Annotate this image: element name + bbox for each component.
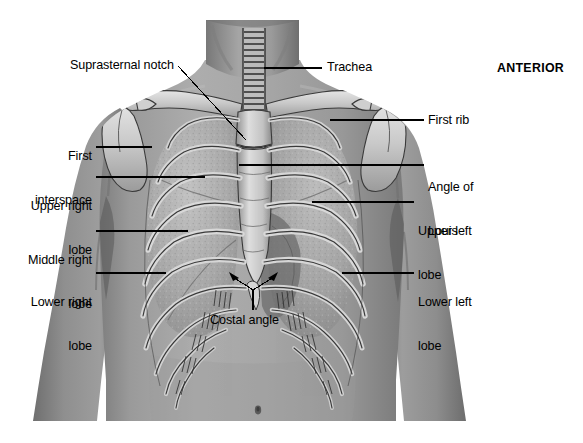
label-suprasternal-notch: Suprasternal notch [70,58,174,73]
label-angle-of-louis-line1: Angle of [428,180,473,195]
label-lower-left-lobe-line1: Lower left [418,295,472,310]
label-first-rib: First rib [428,113,469,128]
label-first-interspace-line1: First [10,149,92,164]
label-lower-right-lobe-line2: lobe [4,339,92,354]
umbilicus-marker [255,406,261,415]
label-upper-right-lobe-line1: Upper right [6,199,92,214]
label-lower-right-lobe: Lower right lobe [4,266,92,368]
label-lower-right-lobe-line1: Lower right [4,295,92,310]
label-anterior-orientation: ANTERIOR [497,61,564,76]
label-lower-left-lobe-line2: lobe [418,339,472,354]
label-costal-angle: Costal angle [210,313,279,328]
label-trachea: Trachea [327,60,372,75]
label-upper-left-lobe-line1: Upper left [418,224,472,239]
label-lower-left-lobe: Lower left lobe [418,266,472,368]
